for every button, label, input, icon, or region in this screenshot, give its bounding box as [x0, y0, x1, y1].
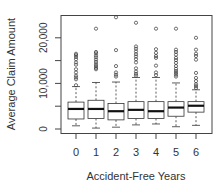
y-tick-label: 20,000 [38, 22, 49, 53]
outlier-point [74, 71, 77, 74]
iqr-box [188, 102, 204, 112]
y-tick-label: 10,000 [38, 68, 49, 99]
outlier-point [174, 56, 177, 59]
iqr-box [168, 102, 184, 117]
box-4 [148, 27, 164, 124]
x-tick-label: 1 [93, 146, 99, 158]
x-tick-label: 4 [153, 146, 159, 158]
boxplot-chart: 010,00020,000 0123456 Average Claim Amou… [0, 0, 223, 193]
x-tick-label: 2 [113, 146, 119, 158]
outlier-point [154, 27, 157, 30]
outlier-point [134, 45, 137, 48]
iqr-box [68, 102, 84, 119]
box-0 [68, 52, 84, 126]
box-5 [168, 27, 184, 127]
box-2 [108, 16, 124, 127]
x-tick-label: 3 [133, 146, 139, 158]
outlier-point [154, 64, 157, 67]
boxes-group [68, 16, 204, 128]
box-6 [188, 36, 204, 125]
outlier-point [74, 68, 77, 71]
outlier-point [114, 49, 117, 52]
y-axis: 010,00020,000 [38, 22, 61, 132]
x-tick-label: 5 [173, 146, 179, 158]
outlier-point [154, 51, 157, 54]
outlier-point [134, 70, 137, 73]
outlier-point [154, 48, 157, 51]
outlier-point [194, 48, 197, 51]
outlier-point [134, 61, 137, 64]
outlier-point [194, 36, 197, 39]
box-1 [88, 27, 104, 128]
outlier-point [194, 80, 197, 83]
x-tick-label: 0 [73, 146, 79, 158]
x-axis-label: Accident-Free Years [86, 170, 186, 182]
box-3 [128, 21, 144, 125]
y-axis-label: Average Claim Amount [5, 18, 17, 130]
outlier-point [114, 64, 117, 67]
outlier-point [174, 27, 177, 30]
outlier-point [134, 67, 137, 70]
outlier-point [134, 21, 137, 24]
y-tick-label: 0 [38, 126, 49, 132]
iqr-box [148, 102, 164, 119]
outlier-point [74, 61, 77, 64]
outlier-point [194, 58, 197, 61]
outlier-point [114, 16, 117, 19]
outlier-point [114, 71, 117, 74]
outlier-point [174, 48, 177, 51]
outlier-point [94, 27, 97, 30]
outlier-point [194, 76, 197, 79]
outlier-point [194, 52, 197, 55]
outlier-point [194, 71, 197, 74]
x-tick-label: 6 [193, 146, 199, 158]
x-axis: 0123456 [73, 134, 199, 159]
